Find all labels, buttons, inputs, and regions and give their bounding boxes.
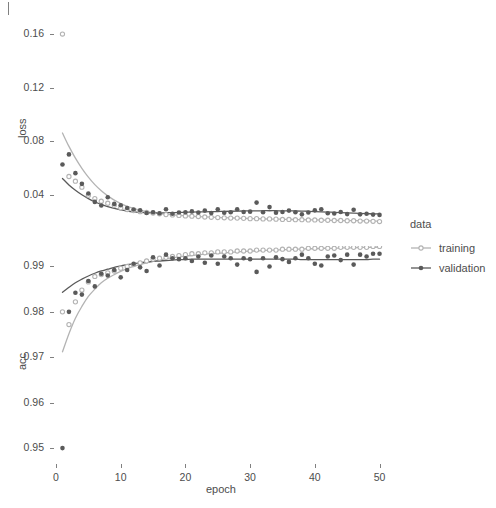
data-point-training (254, 217, 258, 221)
data-point-validation (358, 252, 363, 257)
data-point-validation (125, 268, 130, 273)
data-point-training (300, 218, 304, 222)
data-point-validation (222, 210, 227, 215)
data-point-validation (125, 206, 130, 211)
data-point-training (254, 248, 258, 252)
data-point-training (248, 217, 252, 221)
x-tick-mark (56, 464, 57, 468)
data-point-validation (222, 254, 227, 259)
data-point-training (345, 219, 349, 223)
data-point-validation (261, 210, 266, 215)
data-point-training (267, 248, 271, 252)
data-point-training (274, 217, 278, 221)
data-point-validation (274, 210, 279, 215)
data-point-training (235, 249, 239, 253)
data-point-training (358, 246, 362, 249)
data-point-training (60, 310, 64, 314)
data-point-validation (332, 211, 337, 216)
y-tick-mark (50, 312, 54, 313)
data-point-validation (190, 259, 195, 264)
data-point-validation (300, 212, 305, 217)
data-point-validation (99, 271, 104, 276)
data-point-validation (203, 261, 208, 266)
data-point-validation (138, 208, 143, 213)
y-tick-label: 0.98 (0, 305, 44, 317)
data-point-training (190, 252, 194, 256)
data-point-training (345, 246, 349, 249)
data-point-validation (325, 211, 330, 216)
data-point-validation (241, 210, 246, 215)
data-point-validation (345, 212, 350, 217)
x-tick-label: 0 (36, 471, 76, 483)
x-tick-label: 30 (230, 471, 270, 483)
data-point-training (293, 247, 297, 251)
data-point-training (190, 214, 194, 218)
data-point-validation (151, 255, 156, 260)
legend-key-icon (410, 241, 432, 255)
data-point-training (119, 266, 123, 270)
data-point-validation (306, 210, 311, 215)
data-point-training (157, 256, 161, 260)
data-point-validation (203, 208, 208, 213)
x-axis-title: epoch (206, 483, 236, 495)
data-point-training (339, 246, 343, 249)
data-point-validation (338, 258, 343, 263)
data-point-training (60, 32, 64, 36)
y-tick-label: 0.96 (0, 396, 44, 408)
data-point-training (352, 246, 356, 249)
data-point-validation (177, 210, 182, 215)
data-point-training (371, 219, 375, 223)
data-point-training (306, 246, 310, 250)
data-point-validation (254, 270, 259, 275)
data-point-training (332, 246, 336, 250)
data-point-training (293, 218, 297, 222)
y-tick-mark (50, 141, 54, 142)
data-point-training (73, 179, 77, 183)
data-point-validation (60, 446, 65, 451)
data-point-training (144, 259, 148, 263)
data-point-training (235, 216, 239, 220)
trend-line-training (62, 247, 379, 352)
data-point-training (261, 248, 265, 252)
data-point-validation (177, 257, 182, 262)
data-point-training (216, 215, 220, 219)
data-point-training (248, 249, 252, 253)
data-point-validation (209, 253, 214, 258)
data-point-validation (131, 207, 136, 212)
data-point-training (364, 219, 368, 223)
x-tick-label: 50 (360, 471, 400, 483)
data-point-training (326, 218, 330, 222)
data-point-validation (287, 208, 292, 213)
y-tick-label: 0.12 (0, 81, 44, 93)
data-point-training (319, 218, 323, 222)
figure-root: loss 0.040.080.120.16 acc 0.950.960.970.… (0, 0, 496, 508)
data-point-training (287, 217, 291, 221)
data-point-validation (105, 273, 110, 278)
data-point-validation (118, 275, 123, 280)
data-point-validation (338, 210, 343, 215)
data-point-training (67, 174, 71, 178)
data-point-validation (358, 212, 363, 217)
data-point-training (229, 216, 233, 220)
x-tick-mark (121, 464, 122, 468)
data-point-validation (196, 210, 201, 215)
data-point-validation (377, 213, 382, 218)
data-point-training (371, 246, 375, 249)
data-point-training (73, 300, 77, 304)
data-point-validation (86, 279, 91, 284)
data-point-validation (267, 264, 272, 269)
x-tick-mark (250, 464, 251, 468)
data-point-validation (248, 209, 253, 214)
x-tick-label: 40 (295, 471, 335, 483)
legend-item-validation[interactable]: validation (410, 259, 485, 276)
y-tick-label: 0.16 (0, 27, 44, 39)
data-point-validation (183, 256, 188, 261)
data-point-validation (241, 256, 246, 261)
data-point-validation (99, 203, 104, 208)
data-point-validation (190, 209, 195, 214)
data-point-validation (164, 252, 169, 257)
data-point-training (313, 218, 317, 222)
data-point-training (164, 213, 168, 217)
legend-item-training[interactable]: training (410, 239, 485, 256)
data-point-training (80, 288, 84, 292)
